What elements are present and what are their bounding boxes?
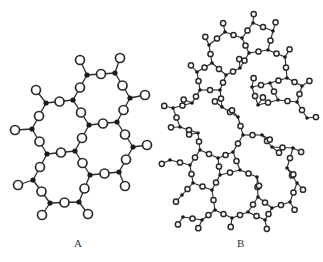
oxygen-atom bbox=[254, 213, 259, 218]
silicon-atom bbox=[195, 70, 199, 74]
oxygen-atom bbox=[251, 11, 256, 16]
oxygen-atom bbox=[97, 70, 106, 79]
silicon-atom bbox=[168, 158, 172, 162]
crystalline-structure-a bbox=[11, 54, 152, 220]
oxygen-atom bbox=[211, 197, 216, 202]
amorphous-structure-b bbox=[159, 11, 318, 231]
silicon-atom bbox=[238, 66, 242, 70]
silicon-atom bbox=[291, 146, 295, 150]
oxygen-atom bbox=[231, 32, 236, 37]
structure-diagram bbox=[0, 0, 323, 262]
oxygen-atom bbox=[206, 212, 211, 217]
oxygen-atom bbox=[14, 181, 23, 190]
oxygen-atom bbox=[38, 211, 47, 220]
oxygen-atom bbox=[196, 78, 201, 83]
oxygen-atom bbox=[218, 96, 223, 101]
oxygen-atom bbox=[196, 139, 201, 144]
silicon-atom bbox=[84, 72, 89, 77]
oxygen-atom bbox=[35, 112, 44, 121]
oxygen-atom bbox=[313, 114, 318, 119]
oxygen-atom bbox=[35, 137, 44, 146]
oxygen-atom bbox=[122, 155, 131, 164]
silicon-atom bbox=[87, 172, 92, 177]
silicon-atom bbox=[305, 116, 309, 120]
silicon-atom bbox=[246, 210, 250, 214]
oxygen-atom bbox=[271, 89, 276, 94]
silicon-atom bbox=[130, 144, 135, 149]
oxygen-atom bbox=[266, 211, 271, 216]
oxygen-atom bbox=[80, 184, 89, 193]
oxygen-atom bbox=[100, 169, 109, 178]
oxygen-atom bbox=[76, 56, 85, 65]
oxygen-atom bbox=[297, 91, 302, 96]
silicon-atom bbox=[285, 76, 289, 80]
oxygen-atom bbox=[175, 222, 180, 227]
silicon-atom bbox=[43, 100, 48, 105]
oxygen-atom bbox=[243, 43, 248, 48]
silicon-atom bbox=[210, 61, 214, 65]
oxygen-atom bbox=[190, 216, 195, 221]
oxygen-atom bbox=[237, 56, 242, 61]
oxygen-atom bbox=[202, 65, 207, 70]
silicon-atom bbox=[283, 55, 287, 59]
oxygen-atom bbox=[77, 108, 86, 117]
silicon-atom bbox=[112, 70, 117, 75]
silicon-atom bbox=[266, 48, 270, 52]
oxygen-atom bbox=[32, 86, 41, 95]
oxygen-atom bbox=[118, 81, 127, 90]
silicon-atom bbox=[285, 166, 289, 170]
silicon-atom bbox=[270, 145, 274, 149]
oxygen-atom bbox=[292, 207, 297, 212]
oxygen-atom bbox=[162, 103, 167, 108]
oxygen-atom bbox=[268, 38, 273, 43]
silicon-atom bbox=[76, 199, 81, 204]
oxygen-atom bbox=[230, 69, 235, 74]
oxygen-atom bbox=[262, 200, 267, 205]
oxygen-atom bbox=[283, 65, 288, 70]
oxygen-atom bbox=[300, 187, 305, 192]
silicon-atom bbox=[268, 81, 272, 85]
oxygen-atom bbox=[189, 171, 194, 176]
oxygen-atom bbox=[251, 76, 256, 81]
oxygen-atom bbox=[227, 170, 232, 175]
silicon-atom bbox=[210, 188, 214, 192]
oxygen-atom bbox=[280, 145, 285, 150]
silicon-atom bbox=[127, 95, 132, 100]
silicon-atom bbox=[190, 101, 194, 105]
oxygen-atom bbox=[57, 148, 66, 157]
oxygen-atom bbox=[246, 171, 251, 176]
oxygen-atom bbox=[276, 78, 281, 83]
oxygen-atom bbox=[206, 151, 211, 156]
oxygen-atom bbox=[193, 94, 198, 99]
silicon-atom bbox=[270, 206, 274, 210]
oxygen-atom bbox=[214, 36, 219, 41]
silicon-atom bbox=[238, 168, 242, 172]
oxygen-atom bbox=[174, 115, 179, 120]
silicon-atom bbox=[220, 105, 224, 109]
silicon-atom bbox=[300, 84, 304, 88]
oxygen-atom bbox=[84, 210, 93, 219]
oxygen-atom bbox=[235, 141, 240, 146]
oxygen-atom bbox=[55, 97, 64, 106]
oxygen-atom bbox=[307, 78, 312, 83]
oxygen-atom bbox=[274, 51, 279, 56]
oxygen-atom bbox=[267, 137, 272, 142]
oxygen-atom bbox=[256, 183, 261, 188]
silicon-atom bbox=[116, 169, 121, 174]
silicon-atom bbox=[181, 215, 185, 219]
silicon-atom bbox=[218, 88, 222, 92]
silicon-atom bbox=[295, 181, 299, 185]
oxygen-atom bbox=[265, 100, 270, 105]
oxygen-atom bbox=[245, 28, 250, 33]
oxygen-atom bbox=[185, 186, 190, 191]
silicon-atom bbox=[188, 163, 192, 167]
oxygen-atom bbox=[216, 164, 221, 169]
oxygen-atom bbox=[159, 161, 164, 166]
oxygen-atom bbox=[196, 226, 201, 231]
oxygen-atom bbox=[116, 54, 125, 63]
oxygen-atom bbox=[252, 93, 257, 98]
oxygen-atom bbox=[237, 212, 242, 217]
oxygen-atom bbox=[213, 180, 218, 185]
oxygen-atom bbox=[250, 132, 255, 137]
oxygen-atom bbox=[260, 95, 265, 100]
